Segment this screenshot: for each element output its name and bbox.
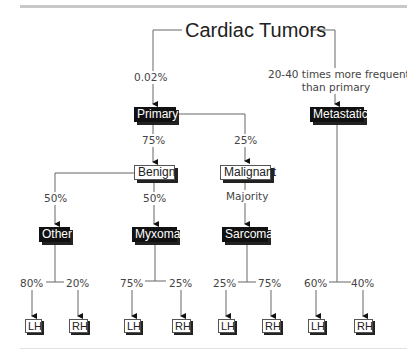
- leaf-metastatic-rh[interactable]: RH: [354, 319, 373, 333]
- pct-metastatic-lh: 60%: [304, 277, 327, 290]
- leaf-other-lh[interactable]: LH: [25, 319, 42, 333]
- edge-label-sarcoma: Majority: [226, 190, 268, 203]
- leaf-sarcoma-rh[interactable]: RH: [262, 319, 281, 333]
- edge-label-metastatic-line1: 20-40 times more frequent: [268, 68, 404, 81]
- leaf-other-rh[interactable]: RH: [69, 319, 88, 333]
- pct-other-rh: 20%: [66, 277, 89, 290]
- pct-myxoma-rh: 25%: [169, 277, 192, 290]
- connector-lines: [0, 0, 407, 351]
- edge-label-metastatic: 20-40 times more frequent than primary: [268, 68, 404, 94]
- pct-myxoma-lh: 75%: [120, 277, 143, 290]
- diagram-title: Cardiac Tumors: [185, 18, 326, 42]
- leaf-myxoma-lh[interactable]: LH: [124, 319, 141, 333]
- node-malignant[interactable]: Malignant: [220, 165, 271, 180]
- node-primary[interactable]: Primary: [134, 107, 176, 122]
- edge-label-malignant: 25%: [234, 134, 257, 147]
- node-myxoma[interactable]: Myxoma: [132, 227, 177, 242]
- leaf-myxoma-rh[interactable]: RH: [172, 319, 191, 333]
- edge-label-benign: 75%: [142, 134, 165, 147]
- leaf-sarcoma-lh[interactable]: LH: [218, 319, 235, 333]
- pct-sarcoma-rh: 75%: [258, 277, 281, 290]
- node-sarcoma[interactable]: Sarcoma: [222, 227, 268, 242]
- pct-sarcoma-lh: 25%: [213, 277, 236, 290]
- node-other[interactable]: Other: [39, 227, 70, 242]
- edge-label-metastatic-line2: than primary: [268, 81, 404, 94]
- edge-label-primary: 0.02%: [134, 71, 167, 84]
- leaf-metastatic-lh[interactable]: LH: [308, 319, 325, 333]
- node-metastatic[interactable]: Metastatic: [310, 107, 364, 122]
- node-benign[interactable]: Benign: [134, 165, 175, 180]
- pct-metastatic-rh: 40%: [351, 277, 374, 290]
- pct-other-lh: 80%: [20, 277, 43, 290]
- edge-label-other: 50%: [44, 192, 67, 205]
- edge-label-myxoma: 50%: [143, 192, 166, 205]
